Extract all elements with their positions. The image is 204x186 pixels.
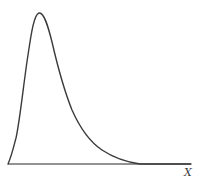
chart-canvas xyxy=(0,0,204,186)
density-curve xyxy=(8,13,191,164)
x-axis-label: X xyxy=(184,166,192,179)
skewed-distribution-chart: X xyxy=(0,0,204,186)
